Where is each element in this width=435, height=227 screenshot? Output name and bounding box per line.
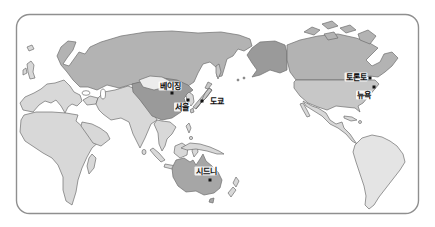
city-label-sydney: 시드니 xyxy=(195,167,218,176)
city-label-tokyo: 도쿄 xyxy=(209,97,225,106)
city-dot-new-york xyxy=(373,86,376,89)
city-label-toronto: 토론토 xyxy=(345,73,368,82)
world-map: 베이징 서울 도쿄 시드니 토론토 뉴욕 xyxy=(0,0,435,227)
city-label-new-york: 뉴욕 xyxy=(356,91,372,100)
city-dot-tokyo xyxy=(201,100,204,103)
city-overlay: 베이징 서울 도쿄 시드니 토론토 뉴욕 xyxy=(0,0,435,227)
city-label-seoul: 서울 xyxy=(174,103,190,112)
city-dot-seoul xyxy=(187,99,190,102)
city-dot-beijing xyxy=(171,92,174,95)
city-dot-toronto xyxy=(369,77,372,80)
city-label-beijing: 베이징 xyxy=(159,82,182,91)
city-dot-sydney xyxy=(209,179,212,182)
